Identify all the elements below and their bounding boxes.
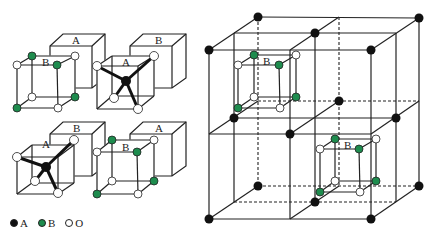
left-unit-3-front-cube: A bbox=[13, 136, 79, 198]
left-unit-2-front-label: A bbox=[122, 56, 130, 68]
left-unit-3-back-label: B bbox=[73, 122, 80, 134]
left-unit-4-front-label: B bbox=[122, 141, 129, 153]
big-lattice: B B bbox=[205, 13, 424, 224]
legend-item-b: B bbox=[38, 217, 55, 229]
left-unit-3-front-label: A bbox=[42, 138, 50, 150]
left-unit-4-back-label: A bbox=[155, 122, 163, 134]
legend-item-o: O bbox=[65, 217, 83, 229]
left-unit-2-back-label: B bbox=[155, 34, 162, 46]
legend-label-b: B bbox=[48, 217, 55, 229]
left-unit-1-back-label: A bbox=[72, 34, 80, 46]
legend-item-a: A bbox=[10, 217, 28, 229]
legend-label-a: A bbox=[20, 217, 28, 229]
open-circle-icon bbox=[65, 219, 73, 227]
black-circle-icon bbox=[10, 219, 18, 227]
legend-label-o: O bbox=[75, 217, 83, 229]
left-unit-1-front-cube: B bbox=[13, 52, 79, 112]
inner-subcube-1-label: B bbox=[263, 55, 270, 67]
legend: A B O bbox=[10, 217, 83, 229]
inner-subcube-2-label: B bbox=[344, 139, 351, 151]
left-unit-1-front-label: B bbox=[42, 56, 49, 68]
green-circle-icon bbox=[38, 219, 46, 227]
spinel-structure-diagram: A B B bbox=[0, 0, 434, 244]
